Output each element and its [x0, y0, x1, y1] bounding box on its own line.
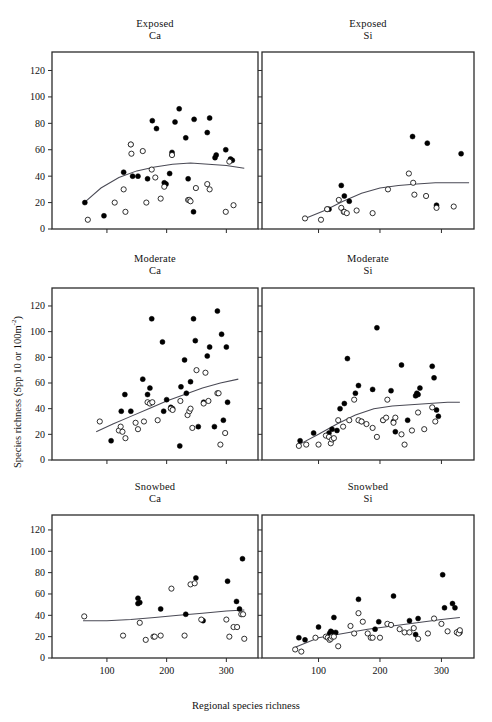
data-point-filled [240, 556, 245, 561]
data-point-open [430, 405, 435, 410]
data-point-open [402, 630, 407, 635]
data-point-open [388, 622, 393, 627]
data-point-filled [370, 387, 375, 392]
data-point-filled [221, 418, 226, 423]
data-point-open [397, 627, 402, 632]
data-point-filled [178, 384, 183, 389]
data-point-filled [184, 391, 189, 396]
data-point-filled [177, 106, 182, 111]
data-point-filled [342, 193, 347, 198]
data-point-open [170, 407, 175, 412]
data-point-open [331, 634, 336, 639]
data-point-filled [356, 597, 361, 602]
data-point-filled [164, 397, 169, 402]
data-point-open [155, 418, 160, 423]
data-point-filled [183, 612, 188, 617]
data-point-open [336, 644, 341, 649]
x-tick-label: 100 [99, 665, 114, 676]
data-point-open [143, 637, 148, 642]
data-point-open [331, 436, 336, 441]
data-point-open [227, 634, 232, 639]
data-point-filled [452, 605, 457, 610]
data-point-open [153, 175, 158, 180]
data-point-open [336, 418, 341, 423]
figure-root: Species richness (Spp 10 or 100m-2) Regi… [0, 0, 492, 722]
y-tick-label: 0 [40, 454, 45, 465]
data-point-filled [82, 200, 87, 205]
data-point-filled [109, 438, 114, 443]
data-point-filled [353, 391, 358, 396]
data-point-open [434, 205, 439, 210]
y-tick-label: 20 [35, 197, 45, 208]
data-point-filled [334, 428, 339, 433]
data-point-open [399, 432, 404, 437]
data-point-filled [121, 170, 126, 175]
data-point-open [318, 217, 323, 222]
data-point-open [412, 192, 417, 197]
data-point-filled [205, 130, 210, 135]
data-point-filled [376, 619, 381, 624]
data-point-open [293, 647, 298, 652]
data-point-open [223, 430, 228, 435]
y-tick-label: 20 [35, 429, 45, 440]
data-point-open [370, 425, 375, 430]
data-point-open [433, 419, 438, 424]
data-point-open [169, 586, 174, 591]
data-point-filled [417, 386, 422, 391]
data-point-open [425, 631, 430, 636]
data-point-filled [234, 599, 239, 604]
panel-frame-moderate-si [262, 288, 474, 460]
data-point-filled [225, 579, 230, 584]
data-point-open [352, 397, 357, 402]
data-point-open [402, 442, 407, 447]
data-point-open [370, 635, 375, 640]
data-point-open [123, 209, 128, 214]
data-point-open [370, 211, 375, 216]
data-point-open [144, 200, 149, 205]
data-point-filled [193, 338, 198, 343]
data-point-filled [140, 377, 145, 382]
data-point-filled [191, 209, 196, 214]
panel-moderate-si [258, 288, 474, 464]
data-point-open [121, 187, 126, 192]
data-point-filled [212, 424, 217, 429]
fit-line-moderate-ca [96, 379, 238, 432]
data-point-open [152, 634, 157, 639]
data-point-open [359, 419, 364, 424]
data-point-open [205, 181, 210, 186]
data-point-filled [160, 339, 165, 344]
data-point-open [242, 636, 247, 641]
y-tick-label: 60 [35, 377, 45, 388]
data-point-open [188, 406, 193, 411]
data-point-open [206, 398, 211, 403]
data-point-filled [137, 600, 142, 605]
y-tick-label: 40 [35, 171, 45, 182]
data-point-filled [316, 625, 321, 630]
data-point-filled [205, 354, 210, 359]
data-point-open [188, 199, 193, 204]
data-point-filled [119, 409, 124, 414]
data-point-open [415, 636, 420, 641]
data-point-filled [393, 429, 398, 434]
panel-exposed-ca: 020406080100120 [30, 52, 258, 234]
data-point-open [377, 635, 382, 640]
data-point-filled [442, 605, 447, 610]
data-point-open [178, 398, 183, 403]
data-point-filled [207, 345, 212, 350]
data-point-open [422, 427, 427, 432]
data-point-filled [193, 575, 198, 580]
data-point-filled [225, 400, 230, 405]
data-point-filled [182, 357, 187, 362]
data-point-open [391, 420, 396, 425]
data-point-open [411, 626, 416, 631]
data-point-filled [219, 332, 224, 337]
data-point-open [411, 180, 416, 185]
data-point-filled [436, 414, 441, 419]
data-point-filled [432, 375, 437, 380]
data-point-filled [410, 134, 415, 139]
data-point-filled [183, 135, 188, 140]
data-point-open [203, 370, 208, 375]
data-point-filled [158, 606, 163, 611]
y-tick-label: 0 [40, 223, 45, 234]
data-point-filled [330, 427, 335, 432]
